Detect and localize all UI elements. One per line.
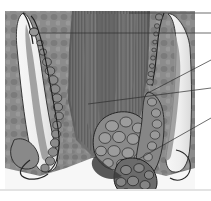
- figure-container: [0, 0, 211, 201]
- anatomical-figure-svg: [0, 0, 211, 201]
- halftone-grain: [5, 11, 195, 189]
